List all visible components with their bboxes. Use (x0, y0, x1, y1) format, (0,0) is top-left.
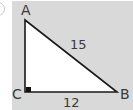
side-label-hypotenuse: 15 (70, 38, 87, 51)
right-angle-marker (26, 87, 31, 92)
triangle-abc (25, 20, 117, 92)
diagram-stage: A B C 15 12 (0, 0, 133, 110)
vertex-label-b: B (120, 87, 130, 101)
vertex-label-c: C (12, 87, 22, 101)
vertex-label-a: A (21, 3, 31, 17)
side-label-base: 12 (63, 96, 80, 109)
